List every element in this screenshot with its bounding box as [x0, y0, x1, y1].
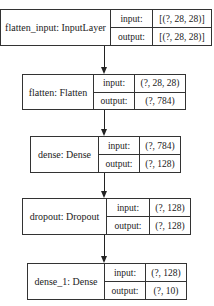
- input-shape: (?, 128): [146, 264, 186, 282]
- output-label: output:: [105, 282, 145, 299]
- input-shape: (?, 128): [150, 199, 190, 217]
- arrow-head-icon: [101, 67, 107, 74]
- edge-line: [104, 46, 105, 68]
- shape-values: (?, 128) (?, 128): [150, 199, 190, 234]
- arrow-head-icon: [101, 191, 107, 198]
- arrow-head-icon: [101, 256, 107, 263]
- io-labels: input: output:: [111, 10, 153, 45]
- input-label: input:: [99, 137, 139, 155]
- input-shape: [(?, 28, 28)]: [153, 10, 211, 28]
- output-shape: (?, 784): [135, 93, 185, 110]
- input-label: input:: [94, 75, 134, 93]
- input-shape: (?, 784): [140, 137, 180, 155]
- io-labels: input: output:: [99, 137, 140, 172]
- io-labels: input: output:: [107, 199, 150, 234]
- edge-line: [104, 235, 105, 256]
- layer-label: flatten: Flatten: [23, 75, 94, 109]
- output-label: output:: [107, 217, 149, 234]
- layer-label: flatten_input: InputLayer: [1, 10, 111, 45]
- edge-line: [104, 110, 105, 130]
- output-shape: (?, 128): [140, 155, 180, 172]
- shape-values: (?, 128) (?, 10): [146, 264, 186, 299]
- output-label: output:: [99, 155, 139, 172]
- layer-node-flatten: flatten: Flatten input: output: (?, 28, …: [22, 74, 186, 110]
- input-label: input:: [107, 199, 149, 217]
- output-shape: [(?, 28, 28)]: [153, 28, 211, 45]
- edge-line: [104, 173, 105, 192]
- shape-values: (?, 784) (?, 128): [140, 137, 180, 172]
- layer-node-dropout: dropout: Dropout input: output: (?, 128)…: [22, 198, 191, 235]
- layer-node-flatten-input: flatten_input: InputLayer input: output:…: [0, 9, 212, 46]
- layer-label: dense_1: Dense: [28, 264, 105, 299]
- output-shape: (?, 10): [146, 282, 186, 299]
- output-shape: (?, 128): [150, 217, 190, 234]
- layer-node-dense-1: dense_1: Dense input: output: (?, 128) (…: [27, 263, 187, 300]
- shape-values: (?, 28, 28) (?, 784): [135, 75, 185, 109]
- io-labels: input: output:: [105, 264, 146, 299]
- output-label: output:: [111, 28, 152, 45]
- shape-values: [(?, 28, 28)] [(?, 28, 28)]: [153, 10, 211, 45]
- input-label: input:: [105, 264, 145, 282]
- io-labels: input: output:: [94, 75, 135, 109]
- input-label: input:: [111, 10, 152, 28]
- layer-node-dense: dense: Dense input: output: (?, 784) (?,…: [30, 136, 181, 173]
- output-label: output:: [94, 93, 134, 110]
- layer-label: dense: Dense: [31, 137, 99, 172]
- arrow-head-icon: [101, 129, 107, 136]
- input-shape: (?, 28, 28): [135, 75, 185, 93]
- layer-label: dropout: Dropout: [23, 199, 107, 234]
